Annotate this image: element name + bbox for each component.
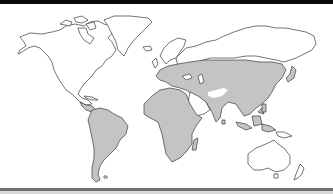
australia (248, 140, 290, 172)
falklands (104, 176, 107, 178)
madagascar (192, 138, 198, 150)
new-guinea (276, 132, 292, 138)
british-isles (152, 58, 158, 68)
iceland (143, 46, 152, 51)
philippines (262, 104, 266, 112)
tasmania (274, 174, 278, 178)
sri-lanka (222, 120, 225, 124)
new-zealand (294, 164, 304, 180)
bottom-border-shadow (0, 191, 333, 194)
south-america-range (88, 108, 128, 182)
world-map (0, 4, 333, 188)
north-america (18, 21, 116, 105)
japan (286, 66, 296, 82)
